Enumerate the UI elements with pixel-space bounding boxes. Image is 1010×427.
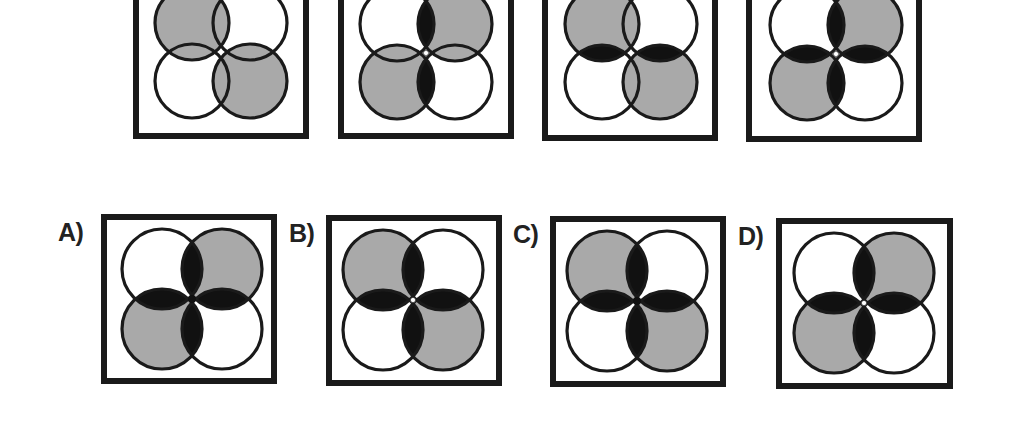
- center-dot: [410, 297, 415, 302]
- sequence-figure-1: [136, 0, 306, 136]
- sequence-figure-2: [341, 0, 511, 136]
- option-label-d[interactable]: D): [738, 224, 763, 249]
- option-figure-2[interactable]: [329, 218, 499, 383]
- center-dot: [861, 300, 866, 305]
- center-black: [633, 297, 641, 305]
- puzzle-canvas: [0, 0, 1010, 427]
- center-dot: [833, 51, 838, 56]
- option-label-b[interactable]: B): [289, 221, 314, 246]
- option-label-c[interactable]: C): [513, 222, 538, 247]
- sequence-figure-3: [545, 0, 715, 138]
- center-black: [188, 295, 196, 303]
- option-figure-4[interactable]: [779, 221, 950, 386]
- option-figure-3[interactable]: [553, 219, 723, 384]
- sequence-figure-4: [749, 0, 919, 139]
- option-label-a[interactable]: A): [58, 220, 83, 245]
- option-figure-1[interactable]: [104, 217, 274, 381]
- puzzle-stage: A)B)C)D): [0, 0, 1010, 427]
- center-dot: [423, 50, 428, 55]
